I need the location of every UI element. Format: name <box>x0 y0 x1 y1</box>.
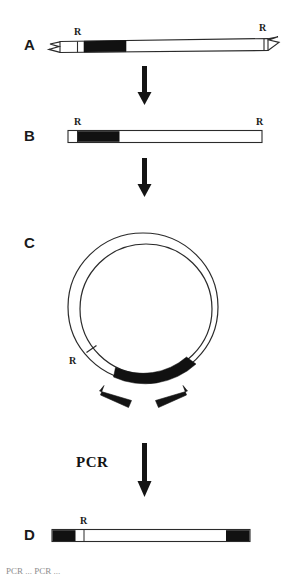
r-label-c: R <box>69 356 76 366</box>
arrow-b-to-c <box>138 158 152 197</box>
pcr-step-label: PCR <box>76 455 108 470</box>
panel-c-black-arc <box>114 357 197 384</box>
panel-c-construct <box>68 233 218 408</box>
panel-c-primer-arrow-left <box>100 386 132 408</box>
arrow-c-to-d <box>138 443 152 497</box>
panel-letter-c: C <box>24 235 35 250</box>
panel-b-construct <box>68 131 262 143</box>
figure-canvas: A B C D R R R R R R PCR PCR ... PCR ... <box>0 0 284 575</box>
r-label-a-right: R <box>259 23 266 33</box>
panel-c-outer-circle <box>68 233 218 381</box>
panel-letter-a: A <box>24 37 35 52</box>
figure-caption: PCR ... PCR ... <box>6 566 284 575</box>
panel-c-primer-arrow-right <box>156 386 188 408</box>
panel-d-black-block-left <box>53 530 76 541</box>
panel-letter-b: B <box>24 128 35 143</box>
panel-a-break-left-icon <box>49 42 60 53</box>
panel-d-black-block-right <box>226 530 250 541</box>
panel-letter-d: D <box>24 527 35 542</box>
r-label-b-left: R <box>74 117 81 127</box>
panel-c-inner-circle <box>80 244 212 374</box>
panel-d-bar <box>52 530 250 542</box>
r-label-a-left: R <box>74 27 81 37</box>
panel-b-black-block <box>78 131 120 142</box>
panel-a-construct <box>49 37 279 53</box>
r-label-d: R <box>80 516 87 526</box>
arrow-a-to-b <box>138 66 152 105</box>
r-label-b-right: R <box>256 117 263 127</box>
diagram-artwork <box>0 0 284 575</box>
panel-a-black-block <box>84 41 126 53</box>
panel-d-construct <box>52 530 250 542</box>
panel-a-break-right-icon <box>268 37 279 51</box>
